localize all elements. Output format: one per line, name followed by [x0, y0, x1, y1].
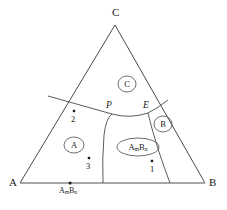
boundary-E-B-curve — [148, 100, 168, 113]
vertex-label-B: B — [209, 177, 216, 188]
point-2-dot — [73, 110, 75, 112]
boundary-A-C-curve — [48, 96, 112, 114]
boundary-P-E-curve — [112, 113, 148, 116]
boundary-P-base-curve — [103, 114, 112, 183]
field-label-C: C — [119, 80, 135, 89]
field-label-AmBn: AmBn — [121, 143, 155, 153]
phase-diagram-canvas — [0, 0, 227, 210]
vertex-label-C: C — [112, 7, 119, 18]
triangle-outline — [20, 25, 205, 183]
compound-marker-label-AmBn: AmBn — [59, 187, 77, 196]
vertex-label-A: A — [9, 177, 17, 188]
edge-AC — [20, 25, 115, 183]
point-3-dot — [88, 157, 90, 159]
ternary-phase-diagram: A B C P E A C B AmBn 1 2 3 AmBn — [0, 0, 227, 210]
field-label-A: A — [66, 141, 82, 150]
edge-CB — [115, 25, 205, 183]
invariant-point-label-P: P — [106, 101, 112, 111]
composition-point-label-3: 3 — [86, 162, 90, 171]
compound-AmBn-dot — [69, 182, 72, 185]
composition-point-label-1: 1 — [150, 165, 154, 174]
point-1-dot — [151, 160, 153, 162]
invariant-point-label-E: E — [143, 101, 149, 111]
composition-point-label-2: 2 — [71, 115, 75, 124]
field-label-B: B — [155, 120, 171, 129]
